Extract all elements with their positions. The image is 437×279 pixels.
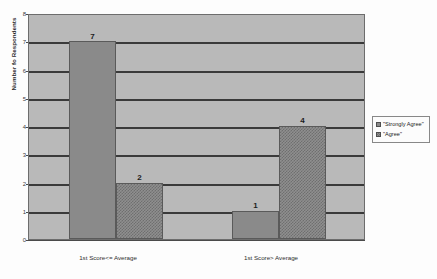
legend-swatch-icon — [376, 132, 381, 137]
y-tick-label: 6 — [4, 68, 26, 74]
legend-item-strongly-agree: "Strongly Agree" — [376, 120, 426, 129]
chart-legend: "Strongly Agree" "Agree" — [372, 116, 430, 143]
y-tick-label: 0 — [4, 237, 26, 243]
legend-item-agree: "Agree" — [376, 130, 426, 139]
y-axis-tick-group: 8 7 6 5 4 3 2 1 0 — [0, 14, 26, 240]
x-tick-label-group-1: 1st Score> Average — [216, 254, 326, 261]
legend-swatch-icon — [376, 122, 381, 127]
bar-group-1-agree — [279, 126, 326, 239]
bar-value-label: 4 — [279, 116, 326, 125]
legend-item-label: "Agree" — [383, 131, 402, 138]
legend-item-label: "Strongly Agree" — [383, 121, 424, 128]
x-axis-line — [28, 240, 365, 241]
y-tick-label: 8 — [4, 11, 26, 17]
y-tick-label: 1 — [4, 209, 26, 215]
bar-group-0-agree — [116, 183, 163, 240]
y-tick-label: 4 — [4, 124, 26, 130]
y-tick-label: 3 — [4, 152, 26, 158]
bar-value-label: 2 — [116, 173, 163, 182]
bar-value-label: 1 — [232, 201, 279, 210]
bar-group-1-strongly-agree — [232, 211, 279, 239]
y-tick-label: 2 — [4, 181, 26, 187]
bar-group-0-strongly-agree — [69, 41, 116, 239]
bar-value-label: 7 — [69, 32, 116, 41]
bar-chart: Number fo Respondents 8 7 6 5 4 3 2 1 0 — [0, 0, 437, 279]
y-tick-label: 5 — [4, 96, 26, 102]
y-tick-label: 7 — [4, 39, 26, 45]
plot-area: 7 2 1 4 — [28, 14, 365, 240]
x-tick-label-group-0: 1st Score<= Average — [53, 254, 163, 261]
